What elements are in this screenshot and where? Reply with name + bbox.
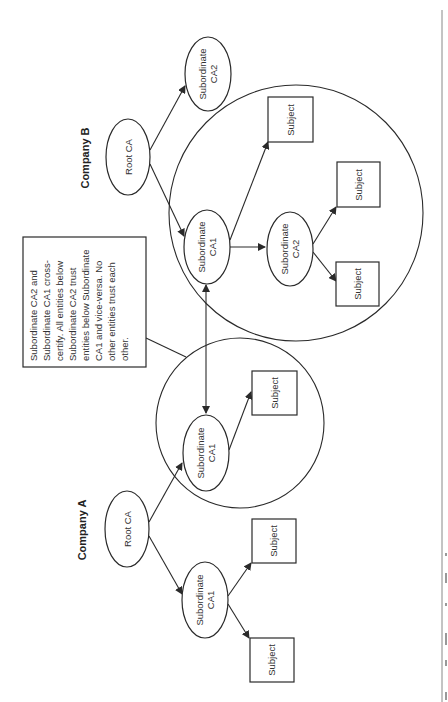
svg-text:Subject: Subject bbox=[352, 268, 363, 300]
company-b-subject-1: Subject bbox=[268, 97, 313, 142]
company-b-subordinate-ca2-inner: Subordinate CA2 bbox=[267, 212, 313, 286]
company-b-label: Company B bbox=[79, 127, 91, 188]
svg-text:Subject: Subject bbox=[268, 525, 279, 557]
edge-a-subca1-outside-to-subject2 bbox=[228, 604, 249, 638]
svg-text:Root CA: Root CA bbox=[122, 510, 133, 547]
svg-text:certify. All entities below: certify. All entities below bbox=[54, 261, 65, 361]
note-leader-line bbox=[146, 338, 186, 357]
edge-b-root-to-subca2 bbox=[150, 86, 185, 150]
edge-a-subca1-outside-to-subject1 bbox=[228, 563, 251, 596]
company-b-subordinate-ca1: Subordinate CA1 bbox=[184, 210, 230, 284]
svg-text:CA1 and vice-versa. No: CA1 and vice-versa. No bbox=[93, 261, 104, 361]
svg-text:Subject: Subject bbox=[353, 169, 364, 201]
svg-text:Subordinate: Subordinate bbox=[194, 574, 205, 625]
svg-text:Subordinate: Subordinate bbox=[195, 427, 206, 478]
svg-text:other entities trust each: other entities trust each bbox=[106, 262, 117, 361]
svg-text:entities below Subordinate: entities below Subordinate bbox=[80, 250, 91, 361]
edge-b-subca1-to-subject1 bbox=[230, 142, 268, 240]
svg-text:Subordinate: Subordinate bbox=[196, 221, 207, 272]
svg-text:Subject: Subject bbox=[266, 644, 277, 676]
svg-text:CA1: CA1 bbox=[206, 444, 217, 462]
svg-text:Subordinate CA1 cross-: Subordinate CA1 cross- bbox=[41, 260, 52, 361]
company-b-root-ca: Root CA bbox=[106, 119, 150, 195]
svg-text:Root CA: Root CA bbox=[123, 138, 134, 175]
edge-b-subca2-to-subject3 bbox=[313, 252, 336, 281]
company-a-subject-domain: Subject bbox=[252, 371, 297, 415]
svg-text:Subject: Subject bbox=[285, 104, 296, 136]
edge-b-subca2-to-subject2 bbox=[313, 207, 336, 244]
svg-text:other.: other. bbox=[119, 337, 130, 361]
company-a-subject-outside-2: Subject bbox=[250, 638, 294, 682]
company-a-label: Company A bbox=[76, 500, 88, 561]
svg-text:CA1: CA1 bbox=[207, 238, 218, 256]
svg-text:Subject: Subject bbox=[269, 377, 280, 409]
svg-text:Subordinate CA2 and: Subordinate CA2 and bbox=[28, 270, 39, 361]
caption-fragments bbox=[445, 553, 447, 700]
company-a-trust-domain bbox=[156, 338, 324, 508]
svg-text:Subordinate: Subordinate bbox=[279, 223, 290, 274]
company-b-subject-2: Subject bbox=[337, 162, 380, 207]
company-b-subject-3: Subject bbox=[336, 262, 379, 306]
edge-a-root-to-subca1-domain bbox=[149, 463, 182, 522]
company-b-subordinate-ca2-outside: Subordinate CA2 bbox=[185, 37, 231, 111]
svg-text:Subordinate CA2 trust: Subordinate CA2 trust bbox=[67, 267, 78, 361]
edge-b-root-to-subca1 bbox=[150, 164, 184, 236]
svg-text:Subordinate: Subordinate bbox=[197, 48, 208, 99]
edge-a-root-to-subca1-outside bbox=[149, 536, 182, 594]
pki-cross-certification-diagram: Root CA Subordinate CA2 Subordinate CA1 … bbox=[0, 0, 448, 702]
company-a-subordinate-ca1-domain: Subordinate CA1 bbox=[183, 415, 229, 491]
cross-certification-note: Subordinate CA2 and Subordinate CA1 cros… bbox=[23, 237, 146, 367]
company-a-subject-outside-1: Subject bbox=[252, 519, 296, 563]
svg-text:CA2: CA2 bbox=[208, 65, 219, 83]
svg-text:CA1: CA1 bbox=[205, 591, 216, 609]
company-a-subordinate-ca1-outside: Subordinate CA1 bbox=[182, 562, 228, 638]
company-a-root-ca: Root CA bbox=[105, 491, 149, 567]
svg-text:CA2: CA2 bbox=[290, 240, 301, 258]
edge-a-subca1-domain-to-subject bbox=[229, 392, 251, 450]
